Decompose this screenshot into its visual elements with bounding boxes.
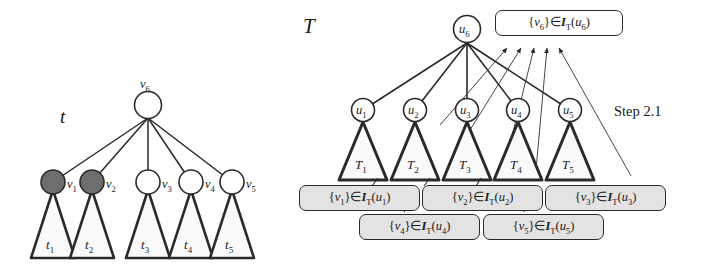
callout-v6-text: {v6}∈IT(u6) (528, 14, 590, 32)
subtree-label-T2: T2 (407, 158, 419, 175)
node-label-u4: u4 (511, 104, 522, 119)
step-label: Step 2.1 (614, 103, 662, 120)
node-v2[interactable] (80, 170, 104, 194)
node-label-v5: v5 (246, 178, 256, 193)
node-v6[interactable] (135, 92, 162, 119)
node-v5[interactable] (220, 170, 244, 194)
callout-v5-text: {v5}∈IT(u5) (513, 218, 575, 236)
subtree-label-t5: t5 (225, 238, 233, 255)
subtree-label-T3: T3 (459, 158, 471, 175)
callout-v3-text: {v3}∈IT(u3) (575, 189, 637, 207)
node-label-u1: u1 (356, 104, 367, 119)
callout-v1-text: {v1}∈IT(u1) (329, 189, 391, 207)
subtree-label-t1: t1 (46, 238, 54, 255)
subtree-label-T1: T1 (355, 158, 367, 175)
node-label-u5: u5 (563, 104, 574, 119)
callout-v1[interactable]: {v1}∈IT(u1) (299, 185, 420, 211)
node-label-u6: u6 (459, 23, 470, 38)
node-label-v6: v6 (140, 78, 150, 93)
right-tree-name: T (303, 16, 315, 37)
subtree-label-t3: t3 (141, 238, 149, 255)
edge-u6-u2 (415, 43, 467, 110)
node-label-v1: v1 (67, 178, 77, 193)
node-v3[interactable] (136, 170, 160, 194)
callout-v4[interactable]: {v4}∈IT(u4) (359, 214, 480, 240)
callout-v3[interactable]: {v3}∈IT(u3) (545, 185, 666, 211)
subtree-label-t4: t4 (184, 238, 192, 255)
subtree-label-T4: T4 (510, 158, 522, 175)
subtree-label-t2: t2 (85, 238, 93, 255)
node-label-u3: u3 (460, 104, 471, 119)
left-tree-name: t (60, 107, 65, 126)
node-v4[interactable] (179, 170, 203, 194)
node-label-v2: v2 (106, 178, 116, 193)
node-label-v4: v4 (205, 178, 215, 193)
subtree-label-T5: T5 (562, 158, 574, 175)
callout-v4-text: {v4}∈IT(u4) (389, 218, 451, 236)
node-v1[interactable] (41, 170, 65, 194)
arrow-u4-to-root-callout (536, 48, 547, 170)
callout-v6[interactable]: {v6}∈IT(u6) (495, 10, 623, 36)
callout-v2-text: {v2}∈IT(u2) (452, 189, 514, 207)
callout-v5[interactable]: {v5}∈IT(u5) (483, 214, 604, 240)
node-label-u2: u2 (408, 104, 419, 119)
callout-v2[interactable]: {v2}∈IT(u2) (422, 185, 543, 211)
node-label-v3: v3 (162, 178, 172, 193)
edge-u6-u4 (467, 43, 518, 110)
